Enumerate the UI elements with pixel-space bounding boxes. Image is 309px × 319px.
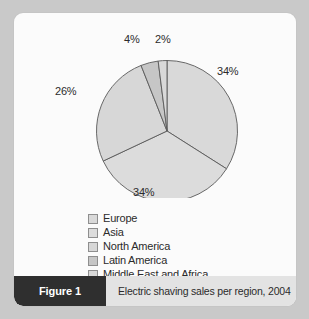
legend-label: North America (103, 241, 170, 252)
legend-swatch-icon (88, 256, 98, 266)
legend-item-asia: Asia (88, 226, 288, 239)
legend-swatch-icon (88, 228, 98, 238)
legend-item-north-america: North America (88, 240, 288, 253)
pie-label-latin-america: 4% (124, 33, 140, 45)
chart-area: 34% 34% 26% 4% 2% Europe Asia North Amer… (14, 13, 296, 266)
figure-number-label: Figure 1 (39, 285, 81, 297)
pie-label-asia: 34% (133, 186, 154, 198)
legend-item-latin-america: Latin America (88, 254, 288, 267)
legend-swatch-icon (88, 214, 98, 224)
pie-label-middle-east-and-africa: 2% (155, 33, 171, 45)
figure-number-tag: Figure 1 (14, 276, 106, 306)
legend-item-europe: Europe (88, 212, 288, 225)
figure-caption-bar: Figure 1 Electric shaving sales per regi… (14, 276, 296, 306)
figure-caption-text: Electric shaving sales per region, 2004 (118, 276, 291, 306)
chart-legend: Europe Asia North America Latin America … (88, 212, 288, 282)
legend-label: Asia (103, 227, 124, 238)
legend-label: Europe (103, 213, 137, 224)
pie-slices (96, 60, 237, 198)
pie-label-europe: 34% (217, 65, 238, 77)
pie-label-north-america: 26% (55, 85, 76, 97)
legend-swatch-icon (88, 242, 98, 252)
legend-label: Latin America (103, 255, 167, 266)
pie-chart: 34% 34% 26% 4% 2% (14, 13, 296, 198)
figure-card: 34% 34% 26% 4% 2% Europe Asia North Amer… (14, 13, 296, 306)
